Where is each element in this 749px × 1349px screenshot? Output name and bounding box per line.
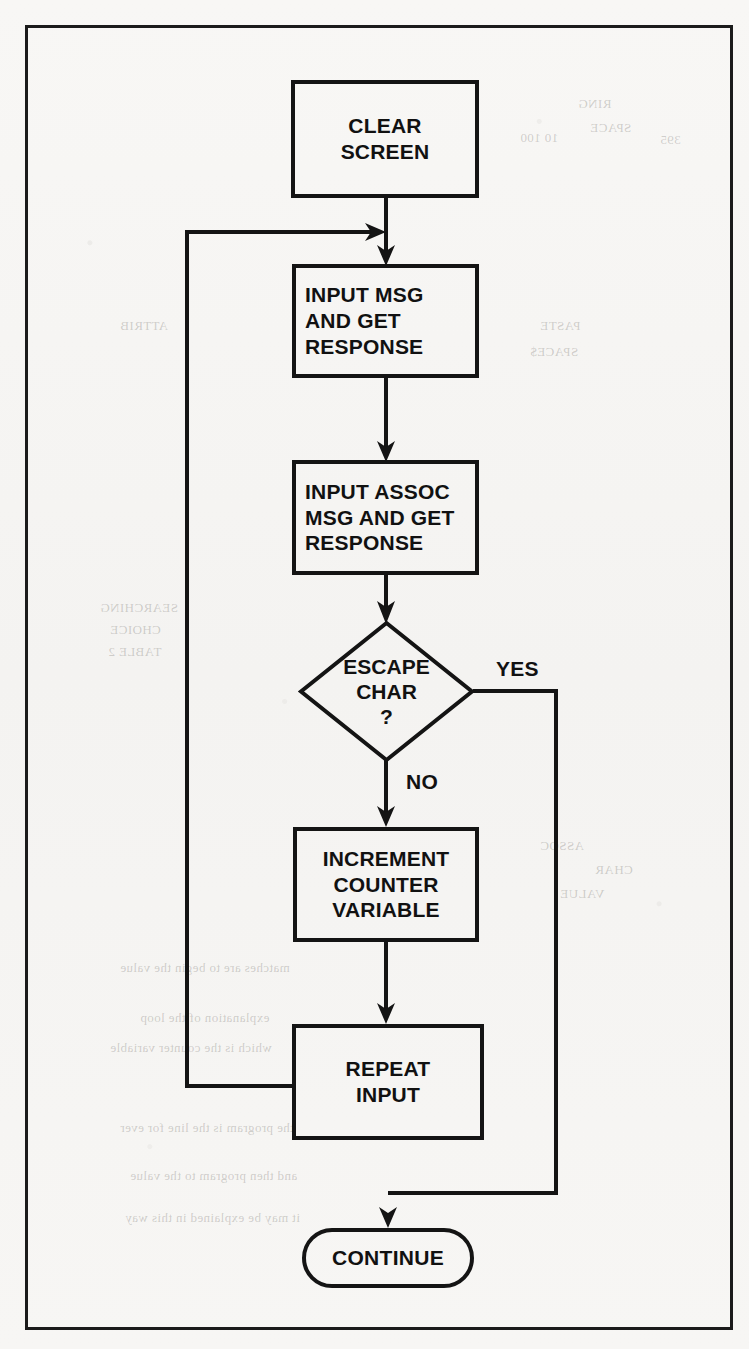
edge-label-no: NO — [406, 770, 438, 794]
node-input-assoc[interactable]: INPUT ASSOC MSG AND GET RESPONSE — [292, 460, 479, 575]
node-input-msg-text: INPUT MSG AND GET RESPONSE — [305, 282, 423, 359]
node-text-line: INPUT — [346, 1082, 431, 1108]
decision-diamond-shape — [301, 623, 472, 760]
node-text-line: VARIABLE — [323, 897, 450, 923]
edge-label-yes: YES — [496, 657, 539, 681]
node-input-msg[interactable]: INPUT MSG AND GET RESPONSE — [292, 264, 479, 378]
node-text-line: MSG AND GET — [305, 505, 455, 531]
node-input-assoc-text: INPUT ASSOC MSG AND GET RESPONSE — [305, 479, 455, 556]
node-text-line: INCREMENT — [323, 846, 450, 872]
node-repeat-input-text: REPEAT INPUT — [346, 1056, 431, 1108]
node-text-line: SCREEN — [341, 139, 430, 165]
node-text-line: REPEAT — [346, 1056, 431, 1082]
node-text-line: INPUT ASSOC — [305, 479, 455, 505]
node-text-line: CLEAR — [341, 113, 430, 139]
node-repeat-input[interactable]: REPEAT INPUT — [292, 1024, 484, 1140]
node-increment-counter-text: INCREMENT COUNTER VARIABLE — [323, 846, 450, 923]
node-increment-counter[interactable]: INCREMENT COUNTER VARIABLE — [293, 827, 479, 942]
node-text-line: INPUT MSG — [305, 282, 423, 308]
node-text-line: AND GET — [305, 308, 423, 334]
node-clear-screen[interactable]: CLEAR SCREEN — [291, 80, 479, 198]
node-clear-screen-text: CLEAR SCREEN — [341, 113, 430, 165]
node-continue-label: CONTINUE — [332, 1246, 444, 1270]
node-continue-terminal[interactable]: CONTINUE — [302, 1228, 474, 1288]
scanned-page: RINGSPACE39510 100PASTESPACE$ATTRIBSEARC… — [0, 0, 749, 1349]
node-text-line: COUNTER — [323, 872, 450, 898]
node-text-line: RESPONSE — [305, 530, 455, 556]
node-escape-char-decision[interactable]: ESCAPE CHAR ? — [298, 620, 475, 763]
node-text-line: RESPONSE — [305, 334, 423, 360]
